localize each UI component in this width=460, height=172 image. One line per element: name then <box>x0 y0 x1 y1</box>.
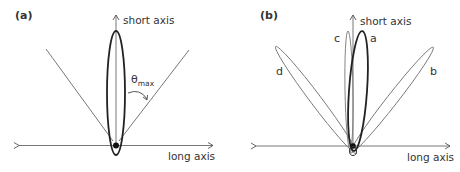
panel-b: (b) short axis c a d b long axis <box>256 9 454 163</box>
theta-arrow-head <box>143 95 148 100</box>
ellipse-c-label: c <box>334 32 340 45</box>
panel-b-label: (b) <box>260 9 278 22</box>
origin-dot <box>113 143 119 149</box>
diagram-canvas: (a) θmax short axis long axis (b) sh <box>0 0 460 172</box>
long-axis-label: long axis <box>407 151 454 163</box>
theta-max-label: θmax <box>131 73 155 88</box>
ellipse-b-label: b <box>430 65 437 78</box>
cone-right-line <box>119 50 189 141</box>
cone-left-line <box>46 49 113 141</box>
panel-a-label: (a) <box>15 9 32 22</box>
short-axis-label: short axis <box>360 15 411 27</box>
ellipse-a <box>345 31 371 152</box>
panel-a: (a) θmax short axis long axis <box>15 9 215 162</box>
ellipse-a-label: a <box>370 32 377 45</box>
long-axis-label: long axis <box>168 150 215 162</box>
ellipse-d-label: d <box>276 65 283 78</box>
short-axis-label: short axis <box>123 14 174 26</box>
